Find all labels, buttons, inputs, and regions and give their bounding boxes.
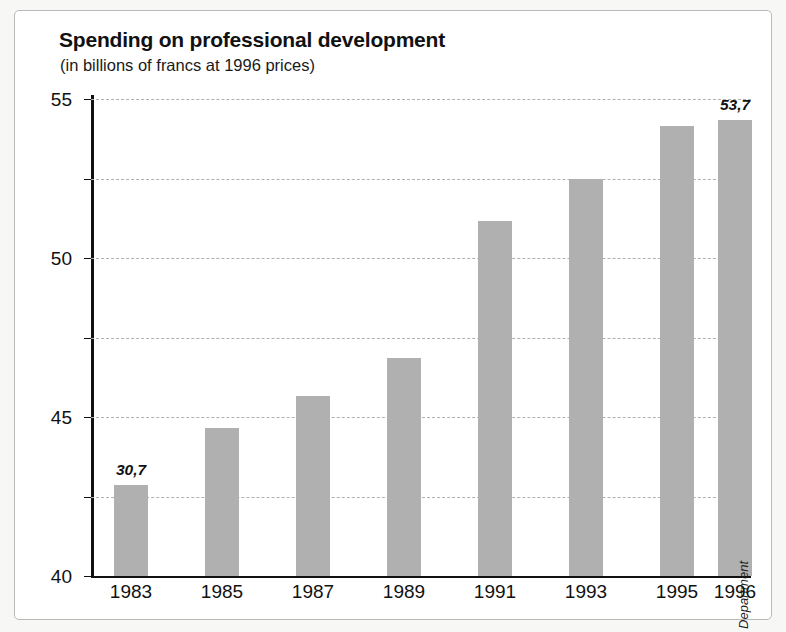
gridline-50 (91, 179, 751, 180)
source-note: Source : Ministry of State Education- Vo… (736, 561, 751, 632)
y-tick-50: 50 (84, 179, 91, 180)
y-tick-30: 30 (84, 497, 91, 498)
x-axis-label: 1989 (383, 581, 425, 603)
y-axis-label: 40 (51, 566, 72, 588)
chart-title: Spending on professional development (59, 28, 445, 52)
x-axis-label: 1995 (656, 581, 698, 603)
bar-value-label: 30,7 (116, 461, 146, 479)
bar (569, 179, 603, 577)
y-axis-label: 55 (51, 89, 72, 111)
x-axis-label: 1987 (292, 581, 334, 603)
bar-value-label: 53,7 (720, 96, 750, 114)
x-axis-label: 1993 (565, 581, 607, 603)
chart-frame: Spending on professional development (in… (14, 10, 772, 620)
y-tick-40: 40 (84, 338, 91, 339)
y-tick-45: 45 (84, 258, 91, 259)
bar (296, 396, 330, 576)
bar (205, 428, 239, 576)
x-axis-label: 1991 (474, 581, 516, 603)
x-axis-label: 1983 (110, 581, 152, 603)
x-axis-label: 1985 (201, 581, 243, 603)
x-axis-line (91, 576, 751, 579)
y-axis-line (91, 95, 94, 576)
plot-area: 25303540455055 30,753,7 1983198519871989… (91, 99, 751, 576)
bar (114, 485, 148, 576)
y-tick-25: 25 (84, 576, 91, 577)
bar (387, 358, 421, 576)
y-axis-label: 50 (51, 248, 72, 270)
gridline-55 (91, 99, 751, 100)
gridline-45 (91, 258, 751, 259)
y-axis-label: 45 (51, 407, 72, 429)
bar (478, 221, 512, 576)
chart-page: Spending on professional development (in… (0, 0, 786, 632)
chart-subtitle: (in billions of francs at 1996 prices) (60, 56, 315, 75)
gridline-30 (91, 497, 751, 498)
bar (660, 126, 694, 576)
gridline-35 (91, 417, 751, 418)
bar (718, 120, 752, 576)
y-tick-35: 35 (84, 417, 91, 418)
y-tick-55: 55 (84, 99, 91, 100)
gridline-40 (91, 338, 751, 339)
